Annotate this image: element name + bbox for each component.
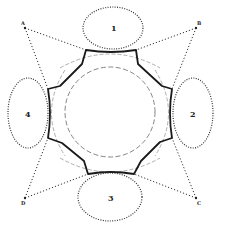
seating-geometry-diagram: 1 2 3 4 A B C D	[0, 0, 225, 226]
line-c-to-e3	[134, 174, 196, 198]
ellipse-4-label: 4	[25, 109, 31, 119]
line-a-to-e1	[25, 28, 86, 50]
ellipse-1-label: 1	[111, 23, 117, 33]
ellipse-2-label: 2	[190, 109, 196, 119]
point-d-marker	[24, 197, 26, 199]
point-a-label: A	[20, 20, 25, 26]
arc-top	[60, 54, 160, 68]
ellipse-3-label: 3	[108, 193, 114, 203]
arc-right	[155, 70, 169, 156]
line-b-to-e1	[136, 28, 196, 50]
inner-circle	[65, 67, 155, 157]
octagon-outline	[48, 50, 172, 174]
outer-dashed-arcs	[52, 54, 169, 172]
point-c-marker	[195, 197, 197, 199]
point-c-label: C	[197, 200, 201, 206]
ellipses	[8, 7, 213, 221]
point-b-marker	[195, 27, 197, 29]
point-b-label: B	[197, 20, 201, 26]
point-a-marker	[24, 27, 26, 29]
point-d-label: D	[21, 200, 26, 206]
arc-bottom	[60, 158, 160, 172]
